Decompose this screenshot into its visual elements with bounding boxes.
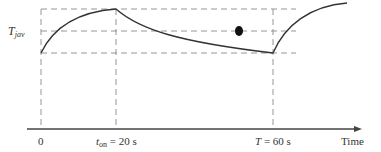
tjav-label: Tjav	[8, 24, 25, 39]
tick-label-ton: ton = 20 s	[96, 135, 137, 149]
average-marker-dot	[235, 26, 243, 36]
temperature-curve-heating-2	[273, 3, 347, 53]
tick-label-period: T = 60 s	[255, 135, 291, 147]
tick-label-zero: 0	[38, 135, 44, 147]
time-axis-arrowhead	[354, 126, 362, 132]
junction-temperature-diagram: Tjav 0 ton = 20 s T = 60 s Time	[0, 0, 381, 152]
dashed-guides	[41, 9, 296, 129]
time-axis-label: Time	[341, 135, 364, 147]
